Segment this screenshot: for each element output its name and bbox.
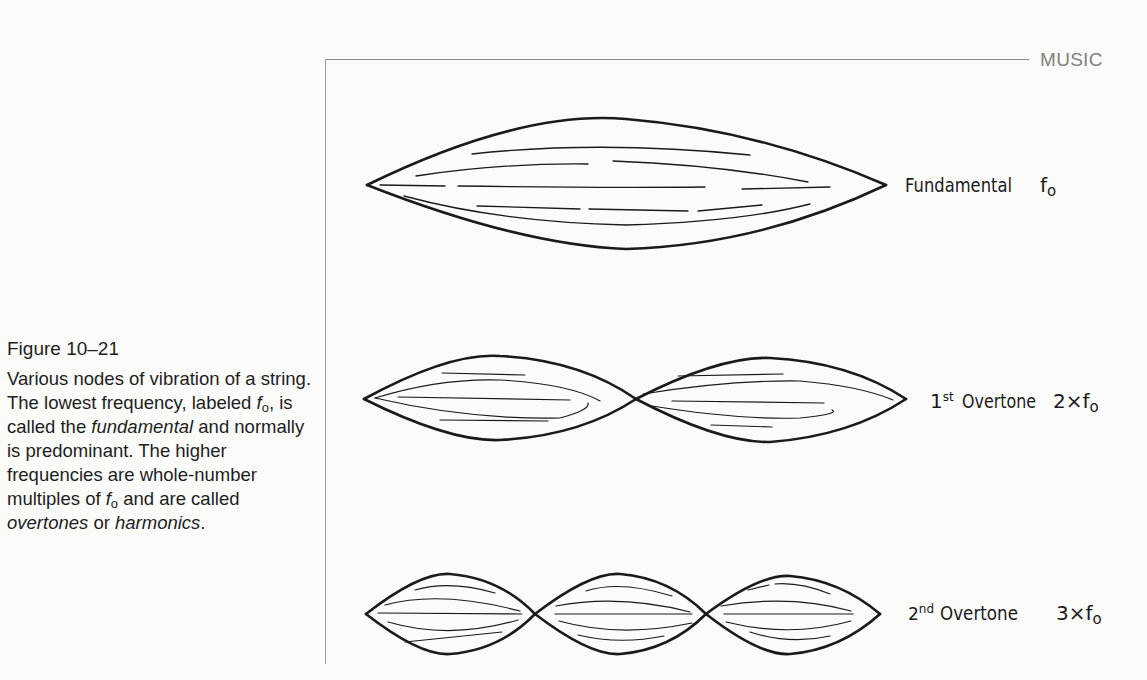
fundamental-multiple: fo [1040,173,1056,200]
second-overtone-ordinal: 2nd [908,602,934,624]
second-overtone-label-text: Overtone [940,601,1018,625]
first-overtone-label-text: Overtone [962,389,1036,413]
first-overtone-loop-shape [364,356,906,442]
second-overtone-multiple: 3×fo [1056,601,1102,628]
second-overtone-loop-shape [366,574,880,654]
first-overtone-multiple: 2×fo [1053,389,1099,416]
fundamental-loop-shape [367,118,886,249]
fundamental-label: Fundamental fo [905,173,1056,200]
second-overtone-label: 2nd Overtone 3×fo [908,601,1102,628]
fundamental-label-text: Fundamental [905,173,1012,197]
first-overtone-ordinal: 1st [930,389,954,413]
string-vibration-drawing: Fundamental fo 1st Overtone 2×fo 2nd Ove… [0,0,1147,680]
first-overtone-label: 1st Overtone 2×fo [930,389,1099,416]
